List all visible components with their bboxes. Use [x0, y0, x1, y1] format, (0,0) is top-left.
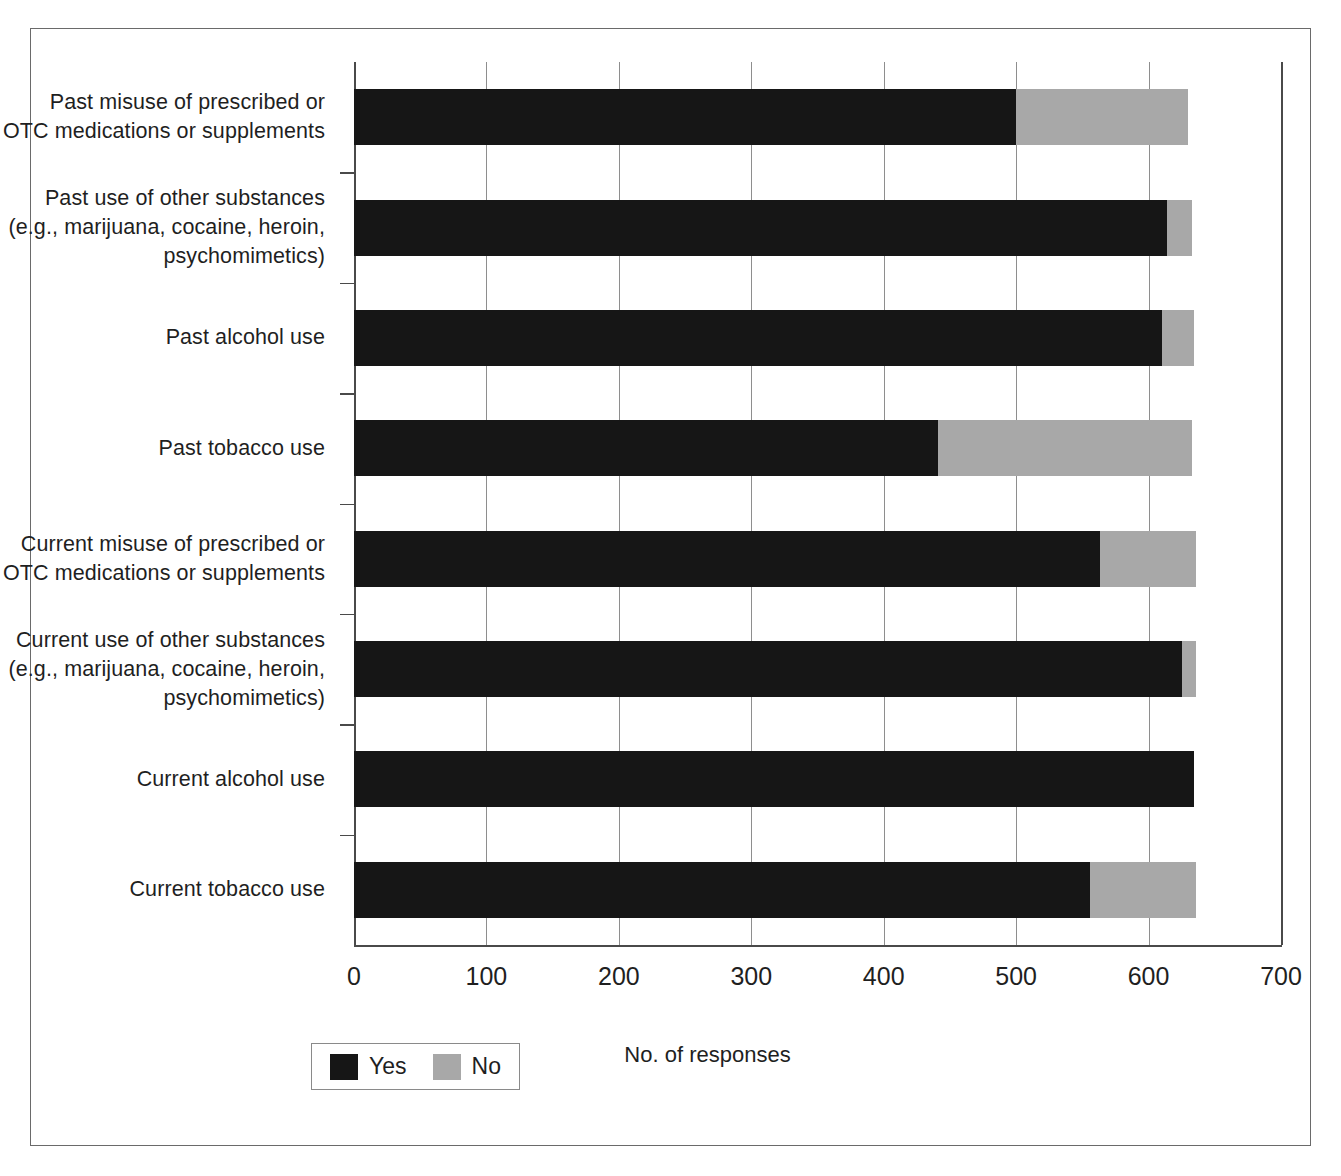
- category-label-current-use-other-substances: Current use of other substances(e.g., ma…: [8, 626, 325, 713]
- bar-past-misuse-prescribed-otc[interactable]: [354, 89, 1188, 145]
- bar-segment-no[interactable]: [1016, 89, 1188, 145]
- category-label-line: Past misuse of prescribed or: [3, 88, 325, 117]
- bar-segment-no[interactable]: [1167, 200, 1192, 256]
- legend-swatch-no: [433, 1054, 461, 1080]
- category-axis-tick: [340, 504, 355, 506]
- gridline-700: [1281, 62, 1283, 945]
- category-label-line: Past use of other substances: [8, 184, 325, 213]
- x-tick-label-100: 100: [466, 962, 508, 991]
- bar-current-misuse-prescribed-otc[interactable]: [354, 531, 1196, 587]
- category-label-past-misuse-prescribed-otc: Past misuse of prescribed orOTC medicati…: [3, 88, 325, 146]
- category-label-line: OTC medications or supplements: [3, 559, 325, 588]
- category-label-line: (e.g., marijuana, cocaine, heroin,: [8, 213, 325, 242]
- bar-past-tobacco-use[interactable]: [354, 420, 1192, 476]
- x-tick-label-700: 700: [1260, 962, 1302, 991]
- category-label-line: Current tobacco use: [129, 875, 325, 904]
- category-label-line: OTC medications or supplements: [3, 117, 325, 146]
- category-axis-tick: [340, 283, 355, 285]
- bar-segment-yes[interactable]: [354, 420, 938, 476]
- bar-segment-no[interactable]: [1162, 310, 1194, 366]
- bar-segment-yes[interactable]: [354, 641, 1182, 697]
- bar-segment-yes[interactable]: [354, 531, 1100, 587]
- x-axis-line: [354, 945, 1282, 947]
- bar-current-use-other-substances[interactable]: [354, 641, 1196, 697]
- plot-area: [354, 62, 1281, 945]
- gridline-200: [619, 62, 620, 945]
- x-tick-label-200: 200: [598, 962, 640, 991]
- bar-segment-yes[interactable]: [354, 310, 1162, 366]
- bar-segment-yes[interactable]: [354, 751, 1194, 807]
- gridline-300: [751, 62, 752, 945]
- bar-segment-no[interactable]: [1100, 531, 1197, 587]
- x-axis-title: No. of responses: [0, 1042, 1341, 1068]
- legend-label-no: No: [472, 1053, 501, 1080]
- figure-container: 0100200300400500600700Past misuse of pre…: [0, 0, 1341, 1176]
- x-tick-label-300: 300: [730, 962, 772, 991]
- x-tick-label-0: 0: [347, 962, 361, 991]
- bar-current-alcohol-use[interactable]: [354, 751, 1194, 807]
- bar-segment-no[interactable]: [1090, 862, 1196, 918]
- gridline-400: [884, 62, 885, 945]
- chart-legend: Yes No: [311, 1043, 520, 1090]
- category-axis-tick: [340, 614, 355, 616]
- legend-label-yes: Yes: [369, 1053, 407, 1080]
- bar-segment-yes[interactable]: [354, 89, 1016, 145]
- category-label-current-tobacco-use: Current tobacco use: [129, 875, 325, 904]
- x-tick-label-500: 500: [995, 962, 1037, 991]
- category-label-current-alcohol-use: Current alcohol use: [137, 765, 325, 794]
- category-axis-tick: [340, 835, 355, 837]
- category-label-line: psychomimetics): [8, 684, 325, 713]
- category-label-line: Past tobacco use: [158, 434, 325, 463]
- x-tick-label-400: 400: [863, 962, 905, 991]
- bar-past-use-other-substances[interactable]: [354, 200, 1192, 256]
- category-label-past-alcohol-use: Past alcohol use: [166, 323, 325, 352]
- legend-swatch-yes: [330, 1054, 358, 1080]
- category-label-line: Current use of other substances: [8, 626, 325, 655]
- gridline-100: [486, 62, 487, 945]
- bar-segment-no[interactable]: [938, 420, 1192, 476]
- bar-segment-no[interactable]: [1182, 641, 1197, 697]
- category-label-line: (e.g., marijuana, cocaine, heroin,: [8, 655, 325, 684]
- category-label-current-misuse-prescribed-otc: Current misuse of prescribed orOTC medic…: [3, 530, 325, 588]
- legend-entry-yes[interactable]: Yes: [330, 1053, 407, 1080]
- x-tick-label-600: 600: [1128, 962, 1170, 991]
- bar-past-alcohol-use[interactable]: [354, 310, 1194, 366]
- category-label-line: Current alcohol use: [137, 765, 325, 794]
- category-label-line: Past alcohol use: [166, 323, 325, 352]
- x-axis-title-text: No. of responses: [624, 1042, 790, 1068]
- bar-segment-yes[interactable]: [354, 862, 1090, 918]
- category-label-line: Current misuse of prescribed or: [3, 530, 325, 559]
- legend-entry-no[interactable]: No: [433, 1053, 501, 1080]
- category-axis-tick: [340, 724, 355, 726]
- category-axis-tick: [340, 172, 355, 174]
- gridline-600: [1149, 62, 1150, 945]
- category-axis-tick: [340, 393, 355, 395]
- gridline-500: [1016, 62, 1017, 945]
- category-label-line: psychomimetics): [8, 242, 325, 271]
- category-label-past-use-other-substances: Past use of other substances(e.g., marij…: [8, 184, 325, 271]
- category-label-past-tobacco-use: Past tobacco use: [158, 434, 325, 463]
- bar-segment-yes[interactable]: [354, 200, 1167, 256]
- bar-current-tobacco-use[interactable]: [354, 862, 1196, 918]
